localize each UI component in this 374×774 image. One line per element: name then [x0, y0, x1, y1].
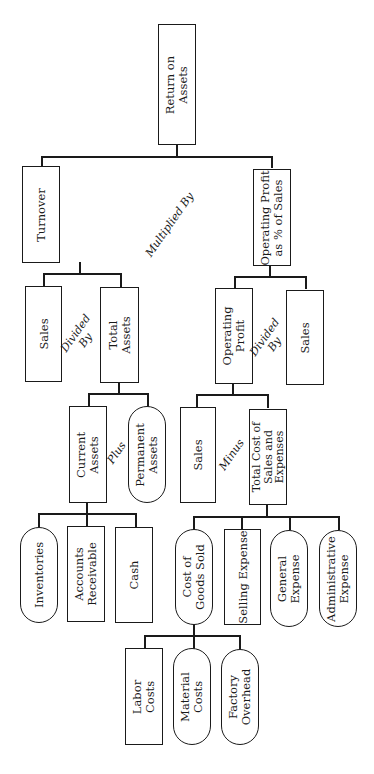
operator-minus: Minus: [217, 437, 247, 472]
node-general-expense: General Expense: [270, 530, 308, 627]
connector: [196, 394, 268, 396]
node-labor-costs: Labor Costs: [125, 648, 163, 745]
operator-plus: Plus: [105, 440, 128, 466]
connector: [176, 144, 178, 156]
node-label: Labor Costs: [131, 679, 157, 713]
node-sales: Sales: [180, 407, 216, 503]
node-label: Sales: [192, 439, 205, 470]
node-label: Turnover: [35, 188, 48, 242]
node-label: Material Costs: [179, 672, 205, 722]
node-label: Administrative Expense: [325, 536, 351, 622]
operator-divided-by: Divided By: [59, 313, 103, 362]
connector: [88, 393, 90, 407]
operator-multiplied-by: Multiplied By: [144, 191, 197, 260]
connector: [289, 516, 291, 530]
node-sales: Sales: [25, 286, 62, 382]
node-operating-profit-pct-sales: Operating Profit as % of Sales: [253, 169, 291, 266]
node-turnover: Turnover: [22, 166, 60, 263]
connector: [239, 635, 241, 649]
node-sales: Sales: [286, 290, 324, 385]
connector: [120, 273, 122, 287]
node-cost-of-goods-sold: Cost of Goods Sold: [175, 529, 213, 625]
node-label: Cash: [128, 561, 141, 590]
node-factory-overhead: Factory Overhead: [221, 649, 259, 745]
node-operating-profit: Operating Profit: [215, 288, 253, 384]
node-label: Operating Profit: [221, 306, 247, 365]
node-cash: Cash: [115, 527, 153, 623]
node-permanent-assets: Permanent Assets: [128, 406, 166, 503]
node-label: Inventories: [33, 542, 46, 608]
node-inventories: Inventories: [20, 527, 58, 623]
connector: [241, 516, 243, 530]
connector: [338, 516, 340, 530]
connector: [196, 394, 198, 408]
node-label: General Expense: [276, 554, 302, 603]
node-label: Total Cost of Sales and Expenses: [251, 422, 286, 492]
connector: [43, 273, 45, 287]
connector: [86, 513, 88, 527]
node-selling-expense: Selling Expense: [224, 529, 261, 625]
node-return-on-assets: Return on Assets: [158, 24, 196, 145]
connector: [135, 513, 137, 527]
node-total-assets: Total Assets: [100, 287, 139, 383]
node-accounts-receivable: Accounts Receivable: [67, 526, 105, 622]
connector: [193, 516, 195, 530]
connector: [305, 276, 307, 289]
connector: [144, 635, 146, 649]
connector: [88, 393, 148, 395]
node-label: Cost of Goods Sold: [181, 544, 207, 610]
node-label: Sales: [37, 318, 50, 349]
node-label: Factory Overhead: [227, 669, 253, 726]
connector: [144, 635, 240, 637]
connector: [41, 156, 272, 158]
node-total-cost-of-sales-and-expenses: Total Cost of Sales and Expenses: [249, 409, 287, 505]
node-label: Accounts Receivable: [73, 542, 99, 606]
connector: [193, 635, 195, 649]
connector: [43, 273, 121, 275]
node-label: Permanent Assets: [134, 423, 160, 487]
node-label: Operating Profit as % of Sales: [259, 170, 285, 265]
node-administrative-expense: Administrative Expense: [319, 530, 357, 627]
node-current-assets: Current Assets: [69, 406, 107, 503]
connector: [267, 394, 269, 408]
connector: [193, 516, 339, 518]
node-label: Total Assets: [107, 316, 133, 353]
connector: [234, 276, 306, 278]
node-material-costs: Material Costs: [173, 648, 211, 745]
return-on-assets-diagram: Return on Assets Turnover Operating Prof…: [0, 0, 374, 774]
connector: [38, 513, 40, 527]
connector: [147, 393, 149, 407]
node-label: Selling Expense: [236, 530, 249, 623]
node-label: Current Assets: [75, 431, 101, 477]
node-label: Return on Assets: [164, 55, 190, 113]
node-label: Sales: [299, 322, 312, 353]
connector: [271, 156, 273, 168]
